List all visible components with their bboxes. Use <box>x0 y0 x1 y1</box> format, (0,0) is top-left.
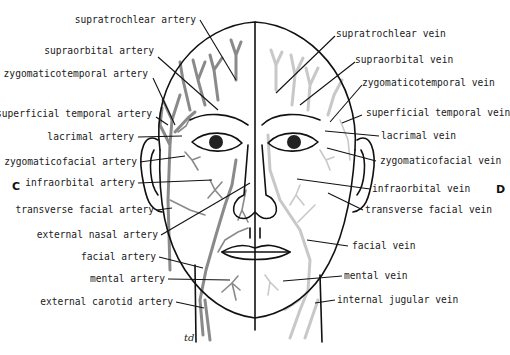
face-vasculature-diagram: supratrochlear artery supraorbital arter… <box>0 0 510 355</box>
artist-signature: td <box>184 332 194 343</box>
label-external-carotid-artery: external carotid artery <box>40 296 173 307</box>
label-superficial-temporal-vein: superficial temporal vein <box>366 107 510 118</box>
arteries-left <box>160 40 248 340</box>
label-zygomaticotemporal-artery: zygomaticotemporal artery <box>4 68 149 79</box>
label-zygomaticofacial-vein: zygomaticofacial vein <box>380 155 501 166</box>
label-zygomaticotemporal-vein: zygomaticotemporal vein <box>362 77 495 88</box>
label-external-nasal-artery: external nasal artery <box>37 229 159 240</box>
label-zygomaticofacial-artery: zygomaticofacial artery <box>4 156 137 167</box>
label-mental-artery: mental artery <box>90 273 165 284</box>
label-superficial-temporal-artery: superficial temporal artery <box>0 108 152 119</box>
label-internal-jugular-vein: internal jugular vein <box>337 294 458 305</box>
panel-label-d: D <box>496 183 505 196</box>
panel-label-c: C <box>12 180 20 193</box>
label-transverse-facial-artery: transverse facial artery <box>15 204 154 215</box>
label-facial-artery: facial artery <box>81 251 156 262</box>
label-infraorbital-artery: infraorbital artery <box>25 177 135 188</box>
label-mental-vein: mental vein <box>344 270 408 281</box>
label-infraorbital-vein: infraorbital vein <box>372 183 470 194</box>
label-lacrimal-artery: lacrimal artery <box>47 131 134 142</box>
label-supraorbital-vein: supraorbital vein <box>355 54 453 65</box>
label-supratrochlear-vein: supratrochlear vein <box>336 28 446 39</box>
label-facial-vein: facial vein <box>352 240 416 251</box>
label-lacrimal-vein: lacrimal vein <box>381 130 456 141</box>
vein-labels: supratrochlear vein supraorbital vein zy… <box>336 28 510 305</box>
label-supratrochlear-artery: supratrochlear artery <box>75 14 197 25</box>
label-transverse-facial-vein: transverse facial vein <box>365 204 492 215</box>
label-supraorbital-artery: supraorbital artery <box>44 45 154 56</box>
artery-labels: supratrochlear artery supraorbital arter… <box>0 14 196 307</box>
